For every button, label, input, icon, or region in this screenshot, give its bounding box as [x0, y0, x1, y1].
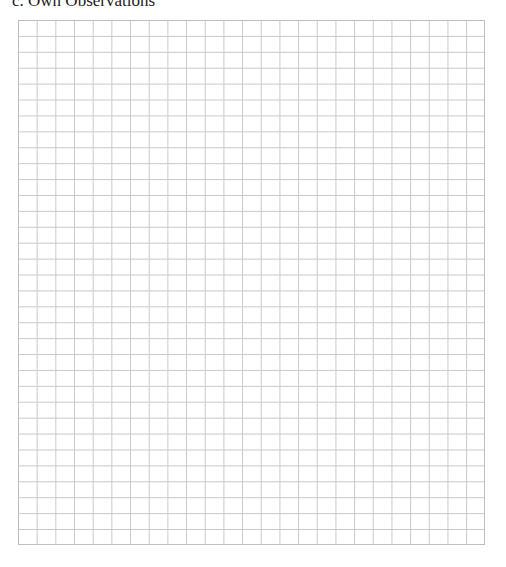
observation-grid — [18, 20, 485, 545]
section-title: c. Own Observations — [12, 0, 155, 11]
